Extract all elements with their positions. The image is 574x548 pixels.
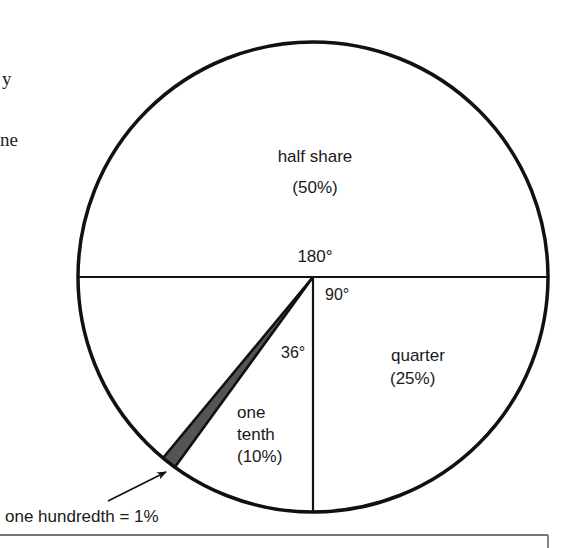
label-one-hundredth: one hundredth = 1% (5, 507, 159, 526)
angle-180: 180° (297, 247, 332, 266)
angle-36: 36° (281, 344, 305, 361)
label-half-share: half share (278, 147, 353, 166)
label-tenth-line2: tenth (237, 425, 275, 444)
label-tenth-pct: (10%) (237, 447, 282, 466)
pie-chart-figure: y ne half share (50%) 180° 90° 36° quart… (0, 0, 574, 548)
label-half-pct: (50%) (292, 178, 337, 197)
label-quarter-pct: (25%) (390, 369, 435, 388)
pie-chart: half share (50%) 180° 90° 36° quarter (2… (0, 0, 574, 548)
angle-90: 90° (325, 286, 349, 303)
label-quarter: quarter (391, 346, 445, 365)
label-tenth-line1: one (237, 403, 265, 422)
pointer-arrow (108, 472, 166, 501)
